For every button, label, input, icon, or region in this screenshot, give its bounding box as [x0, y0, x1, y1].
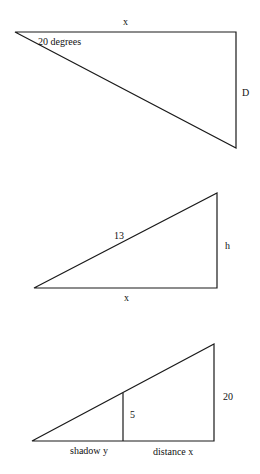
- triangle-3-inner-height-label: 5: [130, 410, 135, 420]
- triangle-2-shape: [34, 193, 217, 288]
- triangle-2-hypotenuse-label: 13: [114, 231, 124, 241]
- triangle-1-shape: [15, 32, 236, 148]
- triangle-2-right-label: h: [225, 241, 230, 251]
- triangle-3-shadow-label: shadow y: [70, 446, 108, 456]
- triangle-1-angle-label: 20 degrees: [38, 37, 81, 47]
- triangle-1-top-label: x: [123, 17, 128, 27]
- triangle-3-distance-label: distance x: [153, 447, 193, 457]
- triangles-svg: [0, 0, 260, 474]
- triangle-3-outer-height-label: 20: [223, 392, 233, 402]
- triangle-2-bottom-label: x: [124, 293, 129, 303]
- triangle-1-right-label: D: [242, 88, 249, 98]
- diagram-canvas: x 20 degrees D 13 h x 5 20 shadow y dist…: [0, 0, 260, 474]
